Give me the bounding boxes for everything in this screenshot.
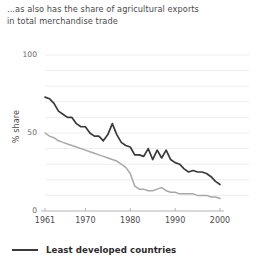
chart-page: ...as also has the share of agricultural… bbox=[0, 0, 260, 264]
x-tick-label: 1970 bbox=[64, 216, 106, 225]
series-lines bbox=[45, 97, 220, 198]
y-axis-title: % share bbox=[12, 97, 21, 157]
legend-line-swatch bbox=[12, 249, 38, 251]
plot-area: % share 050100 19611970198019902000 bbox=[0, 0, 260, 238]
x-tick-label: 1961 bbox=[24, 216, 66, 225]
x-tick-label: 1980 bbox=[109, 216, 151, 225]
series-line bbox=[45, 97, 220, 184]
legend-entry[interactable]: Least developed countries bbox=[12, 245, 176, 255]
chart-svg bbox=[0, 0, 260, 238]
x-tick-label: 1990 bbox=[154, 216, 196, 225]
y-tick-label: 100 bbox=[9, 50, 37, 59]
gridlines bbox=[45, 55, 249, 195]
series-line bbox=[45, 133, 220, 199]
legend-label: Least developed countries bbox=[46, 245, 176, 255]
y-tick-label: 0 bbox=[9, 206, 37, 215]
y-tick-label: 50 bbox=[9, 128, 37, 137]
chart-legend: Least developed countries bbox=[0, 240, 260, 260]
x-tick-label: 2000 bbox=[199, 216, 241, 225]
